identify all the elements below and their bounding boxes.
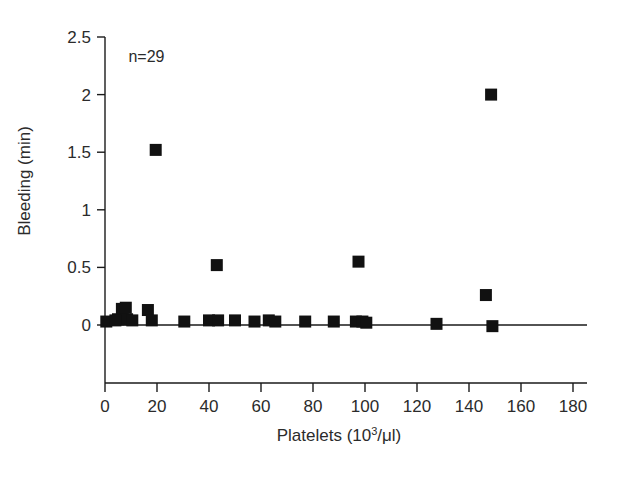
data-point-marker [480,289,492,301]
data-point-marker [486,320,498,332]
data-point-marker [360,317,372,329]
data-point-marker [150,144,162,156]
x-tick-label: 60 [252,397,271,416]
sample-size-annotation: n=29 [128,48,164,65]
y-tick-label: 1 [82,201,91,220]
data-point-marker [120,302,132,314]
data-point-marker [212,314,224,326]
x-tick-label: 0 [100,397,109,416]
y-tick-label: 0.5 [67,258,91,277]
data-point-marker [485,89,497,101]
data-point-marker [178,316,190,328]
data-point-marker [299,316,311,328]
plot-canvas: 00.511.522.5 020406080100120140160180 n=… [0,0,644,480]
x-tick-label: 80 [304,397,323,416]
x-axis-title: Platelets (103/μl) [277,425,402,445]
y-tick-label: 2.5 [67,28,91,47]
data-point-marker [353,256,365,268]
x-tick-label: 20 [148,397,167,416]
y-tick-label: 0 [82,316,91,335]
x-tick-label: 160 [507,397,535,416]
x-tick-label: 40 [200,397,219,416]
data-point-marker [109,314,121,326]
data-point-marker [431,318,443,330]
y-tick-label: 1.5 [67,143,91,162]
x-tick-label: 140 [455,397,483,416]
data-point-marker [146,314,158,326]
data-point-marker [328,316,340,328]
data-point-marker [269,316,281,328]
scatter-plot-figure: 00.511.522.5 020406080100120140160180 n=… [0,0,644,480]
data-point-marker [229,314,241,326]
chart-annotations: n=29 [128,48,164,65]
x-tick-label: 180 [559,397,587,416]
data-point-marker [249,316,261,328]
x-axis: 020406080100120140160180 [100,383,587,416]
y-axis: 00.511.522.5 [67,28,587,383]
data-point-marker [142,304,154,316]
data-markers [100,89,498,333]
y-axis-title: Bleeding (min) [15,126,34,236]
y-tick-label: 2 [82,86,91,105]
x-tick-label: 120 [403,397,431,416]
x-axis-title-text: Platelets (103/μl) [277,425,402,445]
data-point-marker [126,314,138,326]
x-tick-label: 100 [351,397,379,416]
data-point-marker [211,259,223,271]
